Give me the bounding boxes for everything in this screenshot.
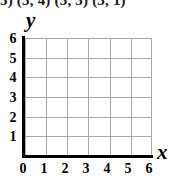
grid-border-right: [151, 38, 152, 156]
y-axis-line: [22, 36, 25, 158]
y-tick-label-5: 5: [6, 52, 20, 66]
x-tick-label-1: 1: [37, 162, 51, 176]
y-tick-label-3: 3: [6, 91, 20, 105]
coordinate-plot-area[interactable]: [25, 38, 152, 156]
y-tick-label-4: 4: [6, 71, 20, 85]
x-tick-label-3: 3: [79, 162, 93, 176]
x-tick-label-5: 5: [121, 162, 135, 176]
worksheet-graph-screenshot: 5) (3, 4) (3, 3) (3, 1) y x 6 5 4 3 2 1 …: [0, 0, 192, 183]
y-tick-label-2: 2: [6, 111, 20, 125]
x-axis-line: [22, 155, 153, 158]
x-tick-label-0: 0: [16, 162, 30, 176]
y-tick-label-1: 1: [6, 130, 20, 144]
x-axis-label: x: [157, 142, 168, 163]
x-tick-label-2: 2: [58, 162, 72, 176]
x-tick-label-4: 4: [100, 162, 114, 176]
x-tick-label-6: 6: [142, 162, 156, 176]
grid-lines: [25, 38, 152, 156]
y-axis-label: y: [26, 10, 35, 31]
y-tick-label-6: 6: [6, 32, 20, 46]
